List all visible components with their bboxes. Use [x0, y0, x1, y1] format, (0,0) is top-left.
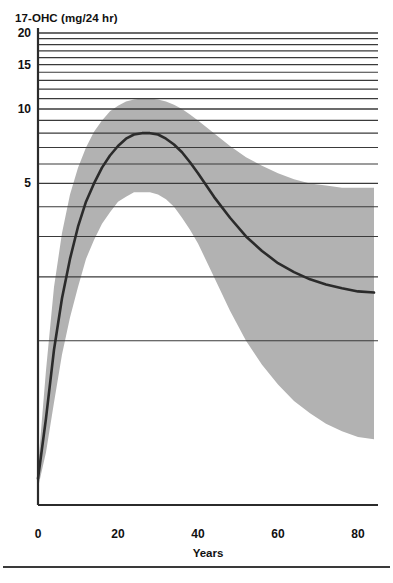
y-axis-unit-label: 17-OHC (mg/24 hr) — [15, 12, 118, 24]
x-tick-label: 0 — [18, 527, 58, 541]
y-tick-label: 15 — [5, 58, 31, 72]
y-tick-label: 5 — [5, 176, 31, 190]
x-tick-label: 80 — [338, 527, 378, 541]
x-tick-label: 20 — [98, 527, 138, 541]
x-tick-label: 40 — [178, 527, 218, 541]
x-axis-title: Years — [148, 547, 268, 559]
figure-container: 17-OHC (mg/24 hr) 5101520 020406080 Year… — [0, 0, 393, 583]
y-tick-label: 10 — [5, 102, 31, 116]
chart-plot-area — [0, 0, 393, 583]
bottom-divider-rule — [3, 566, 390, 568]
confidence-band — [38, 99, 374, 488]
y-tick-label: 20 — [5, 26, 31, 40]
x-tick-label: 60 — [258, 527, 298, 541]
